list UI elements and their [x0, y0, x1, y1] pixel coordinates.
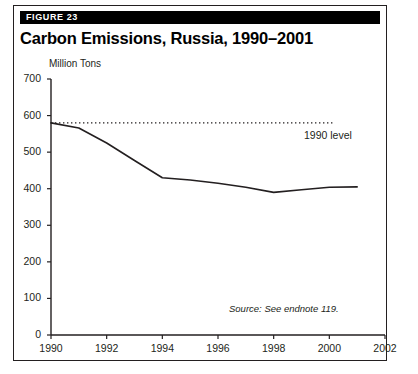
chart-svg [0, 0, 418, 374]
x-tick-label: 1998 [254, 342, 294, 354]
y-tick-label: 700 [13, 72, 41, 84]
x-tick-label: 2002 [365, 342, 405, 354]
y-tick-label: 0 [13, 328, 41, 340]
chart-plot-area: Million Tons 010020030040050060070019901… [0, 0, 418, 374]
x-tick-label: 1996 [198, 342, 238, 354]
x-tick-label: 1994 [142, 342, 182, 354]
y-tick-label: 500 [13, 145, 41, 157]
x-tick-label: 2000 [309, 342, 349, 354]
y-tick-label: 400 [13, 182, 41, 194]
x-tick-label: 1992 [87, 342, 127, 354]
x-tick-label: 1990 [31, 342, 71, 354]
y-tick-label: 300 [13, 218, 41, 230]
source-note: Source: See endnote 119. [229, 303, 339, 314]
series-annotation-1990-level: 1990 level [304, 129, 352, 141]
y-axis-title: Million Tons [49, 58, 101, 69]
y-tick-label: 600 [13, 109, 41, 121]
y-tick-label: 200 [13, 255, 41, 267]
figure-container: FIGURE 23 Carbon Emissions, Russia, 1990… [0, 0, 418, 374]
y-tick-label: 100 [13, 291, 41, 303]
